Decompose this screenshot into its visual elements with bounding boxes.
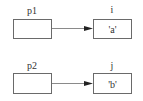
arrow-p1-to-i — [52, 26, 93, 31]
arrow-p2-to-j — [52, 81, 93, 86]
pointer-arrows — [0, 0, 143, 101]
